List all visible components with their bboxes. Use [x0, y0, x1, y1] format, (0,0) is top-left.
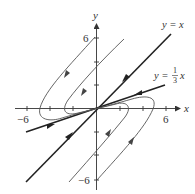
arrow-icon — [47, 124, 55, 129]
label-eq: = — [162, 70, 168, 81]
y-axis-label: y — [92, 9, 98, 21]
x-axis-label: x — [183, 102, 189, 114]
label-y-equals-third-x: y = 1 3 x — [153, 66, 185, 85]
label-fraction-numerator: 1 — [173, 66, 177, 75]
label-y: y — [161, 19, 167, 30]
arrow-icon — [105, 129, 111, 137]
x-tick-label-neg6: −6 — [17, 113, 29, 125]
arrow-icon — [81, 88, 87, 96]
y-tick-label-neg6: −6 — [78, 174, 90, 186]
y-tick-label-6: 6 — [83, 32, 89, 44]
label-eq: = — [170, 19, 176, 30]
label-y-equals-x: y = x — [161, 19, 184, 30]
label-y: y — [153, 70, 159, 81]
label-x: x — [178, 19, 184, 30]
label-fraction-denominator: 3 — [173, 76, 177, 85]
trajectory-upper-outer — [40, 37, 97, 120]
trajectory-lower-outer — [97, 97, 155, 180]
label-x: x — [179, 70, 185, 81]
phase-portrait-diagram: x y −6 6 6 −6 y = x y — [0, 0, 195, 194]
x-tick-label-6: 6 — [163, 113, 169, 125]
